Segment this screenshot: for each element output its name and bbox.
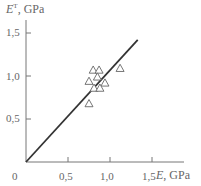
chart-area	[0, 0, 201, 186]
data-point-triangle	[85, 77, 93, 84]
fit-line	[26, 40, 138, 162]
x-axis-label: E, GPa	[156, 168, 190, 183]
x-tick-label: 1,0	[100, 170, 114, 182]
x-axis-label-unit: , GPa	[163, 168, 190, 182]
data-point-triangle	[85, 100, 93, 107]
data-point-triangle	[93, 73, 101, 80]
y-tick-label: 0,5	[6, 112, 20, 124]
x-tick-label: 1,5	[142, 170, 156, 182]
data-point-triangle	[95, 66, 103, 73]
y-axis-label-unit: , GPa	[18, 2, 45, 16]
y-axis-label: ET, GPa	[6, 2, 44, 17]
y-tick-label: 1,0	[6, 70, 20, 82]
x-tick-label: 0,5	[59, 170, 73, 182]
data-point-triangle	[116, 64, 124, 71]
y-tick-label: 1,5	[6, 26, 20, 38]
origin-label: 0	[12, 170, 18, 182]
